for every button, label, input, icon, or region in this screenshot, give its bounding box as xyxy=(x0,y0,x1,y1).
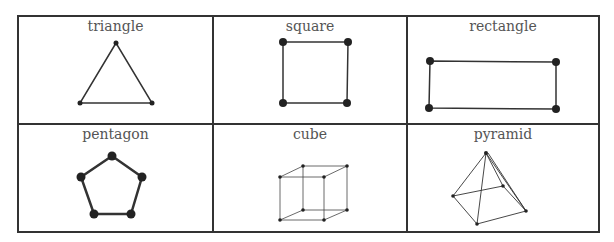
triangle-figure xyxy=(19,17,214,125)
cell-triangle: triangle xyxy=(19,17,214,125)
cell-square: square xyxy=(214,17,408,125)
square-figure xyxy=(214,17,408,125)
shapes-table: triangle square rectangle pentagon cube xyxy=(17,15,600,233)
pentagon-figure xyxy=(19,125,214,233)
cell-pentagon: pentagon xyxy=(19,125,214,231)
cube-figure xyxy=(214,125,408,233)
pyramid-figure xyxy=(408,125,598,233)
cell-pyramid: pyramid xyxy=(408,125,598,231)
cell-cube: cube xyxy=(214,125,408,231)
cell-rectangle: rectangle xyxy=(408,17,598,125)
rectangle-figure xyxy=(408,17,598,125)
